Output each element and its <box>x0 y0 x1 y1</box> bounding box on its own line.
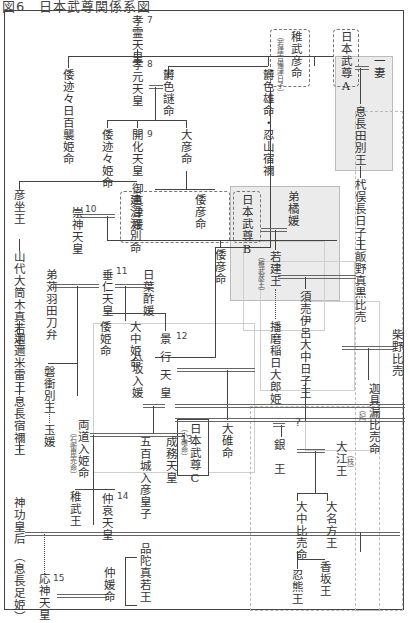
line <box>168 66 268 67</box>
line <box>314 56 315 66</box>
node-jingu-note: （息長足姫） <box>13 551 25 623</box>
node-oshikuma: 忍熊王 <box>291 569 303 605</box>
line <box>155 87 156 120</box>
dotted-line <box>49 401 50 423</box>
node-kogen: 孝元天皇 <box>131 59 143 107</box>
line <box>360 532 361 552</box>
node-kanikumetaru: 迦邇米雷王 <box>13 333 25 393</box>
line <box>297 493 327 494</box>
marriage-line <box>278 275 356 279</box>
line <box>360 68 361 104</box>
line <box>275 230 276 250</box>
line <box>125 605 137 606</box>
gen-number: 8 <box>147 59 153 69</box>
node-yamatohiko1: 倭彦命 <box>194 194 206 230</box>
gen-number: 9 <box>147 129 153 139</box>
node-yamatotakeru-a: 日本武尊A <box>340 31 352 93</box>
node-gin: 銀王 <box>273 439 285 487</box>
node-yamatototohimomoso: 倭迹々日百襲姫命 <box>62 69 74 165</box>
line <box>68 56 69 68</box>
line <box>165 313 166 331</box>
marriage-line <box>57 594 107 598</box>
line <box>19 181 137 182</box>
line <box>107 216 108 240</box>
line <box>186 171 187 189</box>
node-ojin: 応神天皇 <box>38 573 50 621</box>
line <box>93 435 94 525</box>
diagram-frame: 孝霊天皇 7 孝元天皇 8 倭迹々日百襲姫命 欝色謎命 欝色雄命・忍山宿禰 稚武… <box>4 10 404 610</box>
line <box>77 286 78 396</box>
line <box>281 425 282 437</box>
node-kuikomatsu: 杙俣長日子王 <box>354 179 366 251</box>
marriage-line <box>25 532 400 536</box>
node-ikagashikome: 欝色謎命 <box>162 69 174 117</box>
node-nakatsu: 仲媛命 <box>103 567 115 603</box>
line <box>360 166 361 178</box>
line <box>297 493 298 501</box>
line <box>48 363 77 364</box>
line <box>107 120 187 121</box>
line <box>125 557 137 558</box>
line <box>327 493 328 501</box>
node-kagutsu: 迦具漏比売命 <box>368 383 380 455</box>
node-wakatakehiko: 稚武彦命 <box>290 31 302 79</box>
node-kaika: 開化天皇 <box>131 129 143 177</box>
node-wakatakehiko-note: （若建吉備津日子） <box>276 33 284 96</box>
dotted-line <box>275 289 276 319</box>
node-shibano: 柴野比売 <box>391 329 403 377</box>
line <box>125 557 126 605</box>
node-yamatotakeru-c: 日本武尊C <box>189 423 201 485</box>
node-wakatakeru-note: （稚武彦王） <box>257 253 265 295</box>
node-kagosaka: 香坂王 <box>319 561 331 597</box>
line <box>186 120 187 128</box>
line <box>107 120 108 128</box>
node-yamatohiko2: 倭彦命 <box>214 249 226 285</box>
marriage-line <box>51 284 99 288</box>
line <box>125 286 126 321</box>
line <box>227 370 228 420</box>
node-takenunakawawake: 建沼河別命 <box>129 194 141 254</box>
node-sorihime: 玉媛 <box>43 424 55 448</box>
node-yamatotakeru-b: 日本武尊B <box>241 194 253 256</box>
gen-number: 11 <box>116 266 127 276</box>
line <box>153 406 154 434</box>
node-onakatsu: 大中比売命 <box>295 501 307 561</box>
line <box>305 277 306 289</box>
marriage-line <box>177 368 255 372</box>
node-onakata: 大名方王 <box>325 501 337 549</box>
node-yamatohime: 倭姫命 <box>99 321 111 357</box>
node-ioki: 五百城入彦皇子 <box>139 436 151 520</box>
node-ousu: 大碓命 <box>221 423 233 459</box>
question-mark: ? <box>295 416 301 429</box>
dotted-line <box>44 534 45 574</box>
node-oe-note: （枝） <box>346 451 354 472</box>
marriage-line <box>297 449 325 453</box>
node-seimu: 成務天皇 <box>165 436 177 484</box>
gen-number: 14 <box>117 491 128 501</box>
node-iino: 飯野真黒比売 <box>354 251 366 323</box>
gen-number: 12 <box>176 331 187 341</box>
gen-number: 13 <box>181 434 192 444</box>
node-takeshi: 稚武王 <box>69 491 81 527</box>
node-ryodo-note: （石衝毘売命） <box>69 429 77 478</box>
line <box>105 313 165 314</box>
line <box>368 348 369 380</box>
node-chuai: 仲哀天皇 <box>101 493 113 541</box>
node-harima: 播磨稲日大郎姫 <box>269 321 281 405</box>
line <box>19 181 20 189</box>
node-suinin: 垂仁天皇 <box>101 269 113 317</box>
marriage-line <box>261 228 287 232</box>
node-sujin: 崇神天皇 <box>71 207 83 255</box>
node-kagutsu-note: （妃） <box>358 406 366 427</box>
node-okinagatawake: 息長田別王 <box>354 106 366 166</box>
line <box>268 56 269 66</box>
line <box>19 239 20 251</box>
gen-number: 7 <box>147 15 153 25</box>
node-ohiko: 大彦命 <box>180 129 192 165</box>
node-ryodo: 両道入姫命 <box>77 419 89 479</box>
node-korei: 孝霊天皇 <box>131 15 143 63</box>
line <box>315 451 316 493</box>
node-keiko: 景行天皇 <box>159 333 171 405</box>
node-wakatakeru: 若建王 <box>269 251 281 287</box>
node-ototachibana: 弟橘媛 <box>287 191 299 227</box>
